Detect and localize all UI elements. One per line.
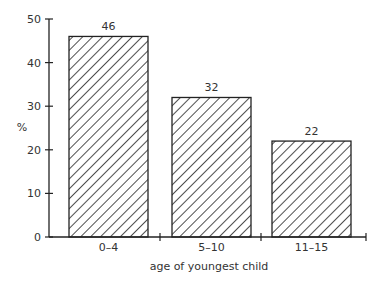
- bar-value-label: 22: [305, 125, 319, 138]
- x-tick-label: 0–4: [99, 241, 119, 254]
- y-tick-label: 50: [27, 13, 41, 26]
- y-tick-label: 30: [27, 100, 41, 113]
- bar: 460–4: [69, 20, 148, 254]
- y-tick-label: 0: [34, 231, 41, 244]
- x-tick-label: 5–10: [198, 241, 225, 254]
- bar: 325–10: [172, 81, 251, 254]
- x-axis-label: age of youngest child: [150, 260, 269, 273]
- bar: 2211–15: [272, 125, 351, 254]
- bar-chart: 01020304050 460–4325–102211–15 % age of …: [0, 0, 389, 283]
- y-axis-label: %: [17, 121, 27, 134]
- y-tick-label: 40: [27, 57, 41, 70]
- x-tick-label: 11–15: [295, 241, 329, 254]
- bar-value-label: 32: [205, 81, 219, 94]
- bar-value-label: 46: [102, 20, 116, 33]
- bars: 460–4325–102211–15: [69, 20, 351, 254]
- y-tick-label: 20: [27, 144, 41, 157]
- y-tick-label: 10: [27, 187, 41, 200]
